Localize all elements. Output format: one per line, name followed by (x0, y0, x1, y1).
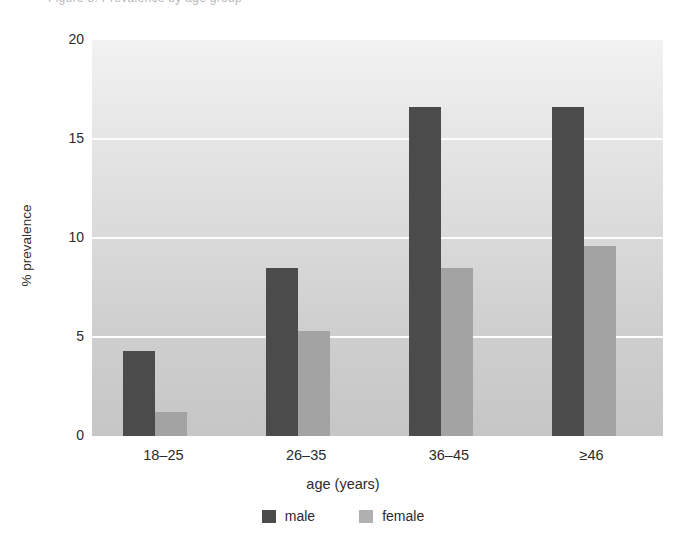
y-axis-tick-label: 20 (52, 31, 84, 47)
bar-chart-figure: Figure 3. Prevalence by age group 051015… (0, 0, 686, 552)
clipped-caption-text: Figure 3. Prevalence by age group (48, 0, 242, 5)
bar-female-3645 (441, 268, 473, 436)
legend-item-male: male (262, 508, 315, 524)
legend-label: female (382, 508, 424, 524)
chart-legend: malefemale (0, 508, 686, 524)
legend-swatch-icon (359, 510, 373, 523)
bar-female-1825 (155, 412, 187, 436)
plot-area (92, 40, 663, 436)
x-axis-tick-label: 26–35 (236, 447, 376, 463)
bar-male-2635 (266, 268, 298, 436)
legend-item-female: female (359, 508, 424, 524)
y-axis-tick-label: 15 (52, 130, 84, 146)
bar-male-1825 (123, 351, 155, 436)
y-axis-tick-label: 5 (52, 328, 84, 344)
bar-male-46 (552, 107, 584, 436)
bar-male-3645 (409, 107, 441, 436)
x-axis-tick-label: 36–45 (379, 447, 519, 463)
legend-swatch-icon (262, 510, 276, 523)
y-axis-label: % prevalence (19, 146, 34, 346)
bar-female-2635 (298, 331, 330, 436)
legend-label: male (285, 508, 315, 524)
y-axis-tick-label: 0 (52, 427, 84, 443)
x-axis-label: age (years) (0, 476, 686, 492)
y-axis-tick-label: 10 (52, 229, 84, 245)
x-axis-tick-label: 18–25 (93, 447, 233, 463)
x-axis-tick-label: ≥46 (522, 447, 662, 463)
bar-female-46 (584, 246, 616, 436)
